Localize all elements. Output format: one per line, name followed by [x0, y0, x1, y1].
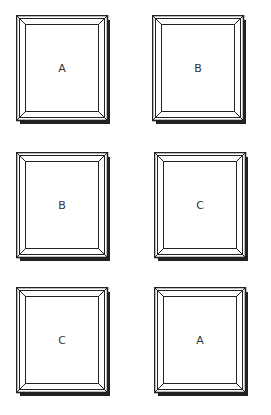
frame-label: A	[154, 334, 246, 347]
frame-label: A	[16, 62, 108, 75]
picture-frame-5: C	[16, 287, 108, 393]
frame-label: B	[16, 199, 108, 212]
picture-frame-4: C	[154, 152, 246, 258]
picture-frame-1: A	[16, 15, 108, 121]
picture-frame-2: B	[152, 15, 244, 121]
frame-label: C	[154, 199, 246, 212]
picture-frame-6: A	[154, 287, 246, 393]
picture-frame-3: B	[16, 152, 108, 258]
frame-label: B	[152, 62, 244, 75]
frame-label: C	[16, 334, 108, 347]
